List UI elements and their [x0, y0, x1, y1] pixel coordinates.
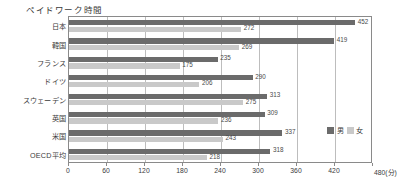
category-label: ドイツ: [0, 76, 66, 86]
x-axis-tick: [372, 163, 373, 166]
x-axis-tick-label: 60: [102, 167, 110, 174]
x-axis-tick-label: 180: [176, 167, 187, 174]
legend-label: 女: [356, 125, 363, 135]
x-axis-tick: [296, 163, 297, 166]
bar-male: [69, 20, 355, 25]
x-axis-tick: [334, 163, 335, 166]
x-axis-tick-label: 360: [290, 167, 301, 174]
bar-male: [69, 57, 218, 62]
bar-group: 452272: [69, 17, 371, 35]
bar-value-label: 272: [244, 25, 255, 31]
legend-label: 男: [337, 125, 344, 135]
bar-male: [69, 149, 270, 154]
bar-female: [69, 118, 218, 123]
bar-group: 309236: [69, 109, 371, 127]
bar-male: [69, 75, 253, 80]
x-axis-labels: 480(分) 060120180240300360420: [0, 167, 408, 181]
category-label: 米国: [0, 131, 66, 141]
bar-group: 337243: [69, 127, 371, 145]
bar-value-label: 290: [255, 74, 266, 80]
bar-value-label: 235: [220, 55, 231, 61]
bar-value-label: 419: [337, 37, 348, 43]
bar-male: [69, 94, 267, 99]
bar-value-label: 206: [202, 80, 213, 86]
x-axis-tick: [220, 163, 221, 166]
chart-title: ペイドワーク時間: [26, 3, 103, 15]
bar-group: 290206: [69, 72, 371, 90]
bar-value-label: 313: [270, 92, 281, 98]
x-axis-tick: [106, 163, 107, 166]
bar-female: [69, 137, 223, 142]
legend-swatch: [327, 127, 334, 134]
x-axis-tick: [68, 163, 69, 166]
plot-area: 4522724192692351752902063132753092363372…: [68, 16, 372, 163]
legend-item: 男: [327, 125, 344, 135]
y-axis-category-labels: 日本韓国フランスドイツスウェーデン英国米国OECD平均: [0, 16, 66, 163]
bar-female: [69, 100, 243, 105]
chart-legend: 男女: [327, 125, 363, 135]
x-axis-tick: [144, 163, 145, 166]
category-label: スウェーデン: [0, 95, 66, 105]
bar-value-label: 452: [358, 19, 369, 25]
x-axis-unit-label: 480(分): [374, 167, 397, 177]
bar-value-label: 309: [267, 110, 278, 116]
bar-female: [69, 155, 207, 160]
category-label: 韓国: [0, 40, 66, 50]
legend-item: 女: [347, 125, 364, 135]
category-label: 日本: [0, 21, 66, 31]
bar-value-label: 236: [221, 117, 232, 123]
bar-group: 313275: [69, 91, 371, 109]
bar-group: 235175: [69, 54, 371, 72]
x-axis-tick-label: 240: [214, 167, 225, 174]
bar-male: [69, 130, 282, 135]
x-axis-tick: [182, 163, 183, 166]
bar-value-label: 318: [273, 147, 284, 153]
bar-female: [69, 27, 241, 32]
bar-female: [69, 45, 239, 50]
x-axis-tick-label: 0: [66, 167, 70, 174]
x-axis-tick-label: 120: [138, 167, 149, 174]
category-label: 英国: [0, 113, 66, 123]
bar-female: [69, 82, 199, 87]
x-axis-tick: [258, 163, 259, 166]
legend-swatch: [347, 127, 354, 134]
bar-group: 318218: [69, 146, 371, 163]
bar-value-label: 337: [285, 129, 296, 135]
bar-female: [69, 63, 180, 68]
category-label: OECD平均: [0, 150, 66, 160]
bar-value-label: 269: [242, 44, 253, 50]
category-label: フランス: [0, 58, 66, 68]
bar-male: [69, 38, 334, 43]
x-axis-tick-label: 420: [328, 167, 339, 174]
bar-value-label: 243: [225, 135, 236, 141]
bar-group: 419269: [69, 35, 371, 53]
bar-male: [69, 112, 265, 117]
paid-work-time-chart: ペイドワーク時間 日本韓国フランスドイツスウェーデン英国米国OECD平均 452…: [0, 0, 408, 187]
x-axis-tick-label: 300: [252, 167, 263, 174]
bar-value-label: 218: [210, 154, 221, 160]
bar-value-label: 275: [246, 99, 257, 105]
bar-value-label: 175: [182, 62, 193, 68]
